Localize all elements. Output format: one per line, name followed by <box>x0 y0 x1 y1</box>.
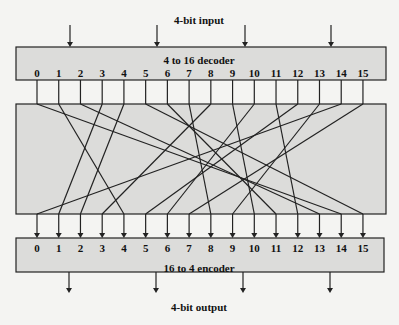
output-arrow-0-head <box>66 288 72 293</box>
decoder-output-number: 7 <box>186 67 192 79</box>
encoder-input-arrow-head <box>338 233 344 238</box>
encoder-input-arrow-head <box>186 233 192 238</box>
decoder-output-number: 14 <box>336 67 347 79</box>
input-arrow-1-head <box>154 42 160 47</box>
encoder-input-number: 3 <box>99 242 105 254</box>
output-arrow-3-head <box>327 288 333 293</box>
encoder-input-number: 0 <box>34 242 40 254</box>
encoder-input-number: 10 <box>249 242 260 254</box>
encoder-input-number: 8 <box>208 242 214 254</box>
decoder-output-number: 1 <box>56 67 62 79</box>
encoder-input-arrow-head <box>121 233 127 238</box>
decoder-output-number: 13 <box>314 67 325 79</box>
encoder-label: 16 to 4 encoder <box>163 262 234 274</box>
input-label: 4-bit input <box>174 14 224 26</box>
input-arrow-3-head <box>328 42 334 47</box>
decoder-output-number: 0 <box>34 67 40 79</box>
decoder-output-number: 11 <box>271 67 281 79</box>
decoder-output-number: 3 <box>99 67 105 79</box>
output-arrow-1-head <box>153 288 159 293</box>
encoder-input-arrow-head <box>34 233 40 238</box>
encoder-input-number: 11 <box>271 242 281 254</box>
encoder-input-number: 5 <box>143 242 149 254</box>
encoder-input-arrow-head <box>230 233 236 238</box>
decoder-label: 4 to 16 decoder <box>163 54 234 66</box>
output-label: 4-bit output <box>171 301 227 313</box>
encoder-input-arrow-head <box>56 233 62 238</box>
decoder-output-number: 6 <box>165 67 171 79</box>
encoder-input-number: 4 <box>121 242 127 254</box>
decoder-output-number: 10 <box>249 67 260 79</box>
encoder-input-arrow-head <box>251 233 257 238</box>
encoder-input-arrow-head <box>316 233 322 238</box>
decoder-output-number: 5 <box>143 67 149 79</box>
encoder-input-arrow-head <box>360 233 366 238</box>
input-arrow-0-head <box>67 42 73 47</box>
encoder-input-number: 1 <box>56 242 62 254</box>
encoder-input-arrow-head <box>208 233 214 238</box>
encoder-input-number: 15 <box>357 242 368 254</box>
decoder-output-number: 12 <box>292 67 303 79</box>
decoder-output-number: 9 <box>230 67 236 79</box>
encoder-input-number: 12 <box>292 242 303 254</box>
encoder-input-number: 13 <box>314 242 325 254</box>
encoder-input-number: 9 <box>230 242 236 254</box>
decoder-output-number: 15 <box>357 67 368 79</box>
encoder-input-arrow-head <box>164 233 170 238</box>
decoder-output-number: 4 <box>121 67 127 79</box>
input-arrow-2-head <box>242 42 248 47</box>
output-arrow-2-head <box>240 288 246 293</box>
encoder-input-arrow-head <box>99 233 105 238</box>
encoder-input-number: 2 <box>78 242 84 254</box>
substitution-diagram <box>0 0 399 325</box>
encoder-input-arrow-head <box>295 233 301 238</box>
encoder-input-arrow-head <box>143 233 149 238</box>
decoder-output-number: 2 <box>78 67 84 79</box>
decoder-output-number: 8 <box>208 67 214 79</box>
encoder-input-arrow-head <box>77 233 83 238</box>
encoder-input-number: 7 <box>186 242 192 254</box>
encoder-input-arrow-head <box>273 233 279 238</box>
encoder-input-number: 6 <box>165 242 171 254</box>
encoder-input-number: 14 <box>336 242 347 254</box>
